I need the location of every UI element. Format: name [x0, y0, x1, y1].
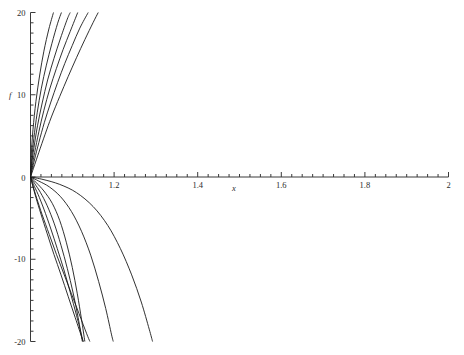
curve-upper-3: [31, 13, 78, 178]
y-tick-label--20: -20: [14, 337, 25, 347]
plot-canvas: 1.21.41.61.8220100-10-20xf: [0, 0, 464, 355]
curve-lower-2: [31, 177, 84, 342]
x-tick-label-1.2: 1.2: [109, 180, 120, 190]
curve-upper-1: [31, 13, 99, 178]
x-tick-label-2: 2: [446, 180, 450, 190]
x-axis-ticks: [31, 172, 449, 177]
x-tick-label-1.6: 1.6: [276, 180, 287, 190]
y-tick-label--10: -10: [14, 254, 25, 264]
function-plot: 1.21.41.61.8220100-10-20xf: [0, 0, 464, 355]
curve-lower-7: [31, 177, 153, 342]
axes-group: [31, 13, 449, 342]
y-tick-label-10: 10: [17, 90, 26, 100]
curve-lower-6: [31, 177, 114, 342]
x-tick-label-1.4: 1.4: [192, 180, 203, 190]
x-tick-label-1.8: 1.8: [360, 180, 371, 190]
y-tick-label-20: 20: [17, 8, 26, 18]
y-tick-label-0: 0: [21, 173, 25, 183]
x-axis-label: x: [231, 183, 236, 193]
y-axis-label: f: [9, 90, 13, 100]
